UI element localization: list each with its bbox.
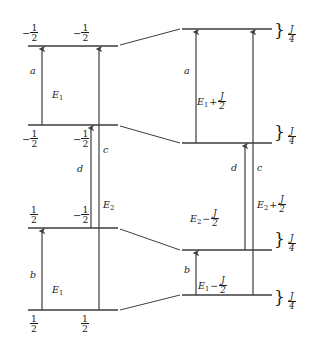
spin-sign: − — [73, 135, 81, 145]
energy-subscript: 1 — [59, 289, 63, 297]
energy-label-c-right: E2+J2 — [257, 196, 286, 214]
spin-label-level4-left: 12 — [30, 315, 38, 334]
tie-line-2 — [120, 126, 180, 143]
energy-label-a-left: E1 — [52, 90, 63, 102]
brace-4: } — [274, 289, 285, 306]
shift-denominator: 2 — [211, 219, 219, 228]
energy-label-a-right: E1+J2 — [197, 93, 226, 111]
shift-label-1: J4 — [288, 26, 296, 44]
spin-sign: − — [22, 135, 30, 145]
spin-label-level1-right: −12 — [73, 24, 89, 43]
transition-label-b-left: b — [30, 270, 36, 280]
spin-label-level3-left: 12 — [30, 206, 38, 225]
energy-operator: + — [208, 97, 218, 107]
energy-symbol: E — [190, 213, 197, 224]
energy-label-b-left: E1 — [52, 285, 63, 297]
energy-label-b-right: E1−J2 — [198, 277, 227, 295]
spin-label-level2-right: −12 — [73, 130, 89, 149]
transition-label-c-left: c — [103, 145, 108, 155]
energy-symbol: E — [198, 280, 205, 291]
energy-symbol: E — [103, 199, 110, 210]
spin-label-level3-right: −12 — [73, 206, 89, 225]
shift-label-4: J4 — [288, 293, 296, 311]
energy-symbol: E — [257, 199, 264, 210]
diagram-canvas — [0, 0, 317, 357]
energy-label-c-left: E2 — [103, 200, 114, 212]
spin-denominator: 2 — [81, 324, 89, 333]
brace-3: } — [274, 231, 285, 248]
shift-denominator: 4 — [288, 302, 296, 311]
energy-symbol: E — [52, 89, 59, 100]
spin-sign: − — [73, 29, 81, 39]
shift-label-3: J4 — [288, 235, 296, 253]
energy-symbol: E — [52, 284, 59, 295]
spin-label-level2-left: −12 — [22, 130, 38, 149]
tie-line-3 — [120, 229, 180, 250]
brace-1: } — [274, 22, 285, 39]
left-transition-arrows — [42, 49, 99, 310]
spin-label-level1-left: −12 — [22, 24, 38, 43]
spin-denominator: 2 — [30, 324, 38, 333]
transition-label-a-left: a — [30, 66, 36, 76]
correlation-tie-lines — [120, 29, 180, 310]
shift-denominator: 2 — [218, 102, 226, 111]
transition-label-c-right: c — [257, 163, 262, 173]
spin-denominator: 2 — [81, 139, 89, 148]
energy-symbol: E — [197, 96, 204, 107]
spin-label-level4-right: 12 — [81, 315, 89, 334]
shift-denominator: 4 — [288, 137, 296, 146]
shift-denominator: 4 — [288, 244, 296, 253]
tie-line-4 — [120, 295, 180, 310]
spin-denominator: 2 — [30, 215, 38, 224]
shift-denominator: 2 — [278, 205, 286, 214]
transition-label-d-right: d — [231, 163, 237, 173]
shift-denominator: 4 — [288, 35, 296, 44]
right-transition-arrows — [196, 32, 253, 295]
transition-label-d-left: d — [77, 164, 83, 174]
spin-denominator: 2 — [30, 33, 38, 42]
spin-sign: − — [22, 29, 30, 39]
spin-denominator: 2 — [81, 33, 89, 42]
spin-denominator: 2 — [81, 215, 89, 224]
shift-label-2: J4 — [288, 128, 296, 146]
energy-operator: − — [201, 214, 211, 224]
energy-level-diagram: −12 −12 −12 −12 12 −12 12 12 a b c d E1 … — [0, 0, 317, 357]
transition-label-b-right: b — [184, 265, 190, 275]
tie-line-1 — [120, 29, 180, 45]
spin-denominator: 2 — [30, 139, 38, 148]
energy-subscript: 1 — [59, 94, 63, 102]
transition-label-a-right: a — [184, 66, 190, 76]
energy-operator: − — [209, 281, 219, 291]
energy-label-d-right: E2−J2 — [190, 210, 219, 228]
shift-denominator: 2 — [219, 286, 227, 295]
brace-2: } — [274, 124, 285, 141]
energy-operator: + — [268, 200, 278, 210]
energy-subscript: 2 — [110, 204, 114, 212]
spin-sign: − — [73, 211, 81, 221]
